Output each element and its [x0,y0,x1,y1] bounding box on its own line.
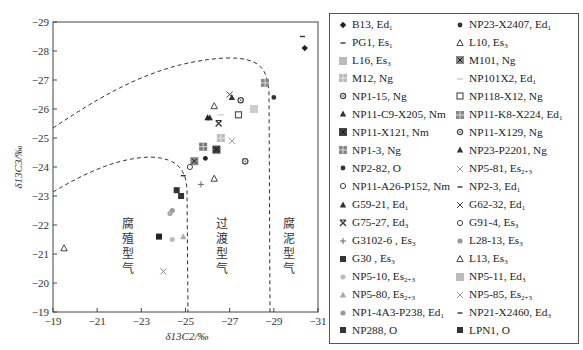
plot-axes: −19−21−23−25−27−29−31−29−28−27−26−25−24−… [32,16,327,327]
data-point [198,181,204,187]
legend-label: NP1-15, Ng [352,90,407,102]
legend-marker-icon [338,56,348,66]
legend-item: NP2-82, O [338,162,401,174]
legend-marker-icon [455,200,465,210]
legend-marker-icon [455,110,465,120]
legend-item: NP11-C9-X205, Nm [338,108,446,120]
legend-item: G30 , Es3 [338,252,395,266]
data-point [211,175,217,181]
legend-label: G30 , Es3 [352,252,395,266]
data-point [174,187,180,193]
data-point [170,237,175,242]
legend-label: NP11-K8-X224, Ed1 [469,108,562,122]
legend-marker-icon [455,182,465,192]
legend-label: LPN1, O [469,324,510,336]
legend-label: NP118-X12, Ng [469,90,543,102]
legend-item: L13, Es3 [455,252,508,266]
legend-item: NP5-81, Es2+3 [455,162,532,176]
legend-item: NP11-A26-P152, Nm [338,180,450,192]
legend-label: M12, Ng [352,72,393,84]
legend-marker-icon [455,127,465,137]
data-point [271,95,276,100]
scatter-plot: −19−21−23−25−27−29−31−29−28−27−26−25−24−… [0,0,330,350]
legend-marker-icon [338,218,348,228]
legend-label: L10, Es3 [469,36,508,50]
legend-label: NP2-3, Ed1 [469,180,520,194]
legend-label: G3102-6 , Es3 [352,234,415,248]
inner-boundary-curve [53,157,188,312]
legend-marker-icon [455,218,465,228]
legend-label: NP11-A26-P152, Nm [352,180,450,192]
legend-label: B13, Ed1 [352,18,393,32]
legend-label: NP5-80, Es2+3 [352,288,415,302]
legend-item: NP288, O [338,324,397,336]
y-tick-label: −26 [32,103,50,115]
region-label: 渡 [216,231,228,246]
legend-marker-icon [455,20,465,30]
legend-label: NP101X2, Ed1 [469,72,536,86]
legend-item: L28-13, Es3 [455,234,523,248]
legend-marker-icon [338,290,348,300]
legend-item: LPN1, O [455,324,510,336]
legend-item: NP1-15, Ng [338,90,407,102]
legend-label: G75-27, Ed3 [352,216,408,230]
legend-item: NP118-X12, Ng [455,90,543,102]
data-point [180,233,186,239]
region-label: 型 [283,247,295,261]
legend-marker-icon [338,127,348,137]
legend-item: NP2-3, Ed1 [455,180,520,194]
region-label: 气 [216,261,228,276]
legend-item: G75-27, Ed3 [338,216,408,230]
legend-item: B13, Ed1 [338,18,393,32]
legend-label: NP5-85, Es2+3 [469,288,532,302]
legend-item: NP11-X121, Nm [338,126,429,138]
data-point [203,156,208,161]
legend-label: NP1-3, Ng [352,144,401,156]
data-point [229,138,235,144]
legend-marker-icon [338,145,348,155]
region-label: 气 [283,261,295,276]
legend-item: NP5-10, Es2+3 [338,270,415,284]
legend-label: NP21-X2460, Ed3 [469,306,551,320]
legend-marker-icon [338,163,348,173]
legend-marker-icon [338,254,348,264]
y-tick-label: −23 [32,190,50,202]
legend-label: PG1, Es1 [352,36,393,50]
plot-frame [53,22,318,312]
x-tick-label: −21 [89,315,106,327]
data-point [156,234,162,240]
legend-item: NP5-80, Es2+3 [338,288,415,302]
data-point [187,164,192,169]
legend-marker-icon [455,164,465,174]
legend-label: L28-13, Es3 [469,234,523,248]
y-tick-label: −21 [32,248,49,260]
legend-marker-icon [338,109,348,119]
legend-item: NP101X2, Ed1 [455,72,536,86]
legend-marker-icon [455,236,465,246]
data-point [238,98,243,103]
legend-marker-icon [455,308,465,318]
legend-marker-icon [338,272,348,282]
y-tick-label: −22 [32,219,49,231]
legend-item: NP11-K8-X224, Ed1 [455,108,562,122]
legend-marker-icon [338,73,348,83]
legend-label: NP11-X121, Nm [352,126,429,138]
legend-marker-icon [455,290,465,300]
legend-item: L10, Es3 [455,36,508,50]
y-axis-label: δ13C3/‰ [12,145,24,188]
y-tick-label: −25 [32,132,50,144]
legend-item: PG1, Es1 [338,36,393,50]
legend-label: L16, Es3 [352,54,391,68]
legend-marker-icon [338,325,348,335]
legend-item: NP1-4A3-P238, Ed1 [338,306,444,320]
data-point [236,112,242,118]
legend-label: L13, Es3 [469,252,508,266]
legend-marker-icon [338,38,348,48]
legend-marker-icon [455,38,465,48]
legend-item: NP1-3, Ng [338,144,401,156]
region-label: 型 [122,247,134,261]
legend-marker-icon [455,272,465,282]
x-tick-label: −25 [177,315,195,327]
data-point [216,121,222,127]
data-point [178,193,184,199]
